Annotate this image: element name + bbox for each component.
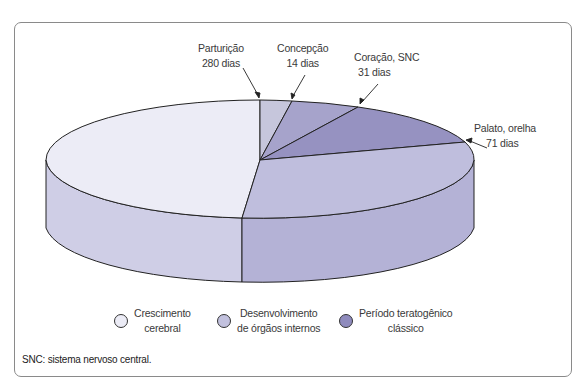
legend-swatch-icon	[114, 314, 128, 328]
label-palato-orelha: Palato, orelha 71 dias	[474, 121, 536, 151]
legend-item-teratogenico: Período teratogênico clássico	[339, 306, 452, 336]
chart-legend: Crescimento cerebral Desenvolvimento de …	[0, 300, 587, 340]
label-parturicao: Parturição 280 dias	[198, 41, 244, 71]
legend-swatch-icon	[339, 314, 353, 328]
legend-item-orgaos: Desenvolvimento de órgãos internos	[217, 306, 320, 336]
label-coracao-snc: Coração, SNC 31 dias	[354, 50, 419, 80]
footnote: SNC: sistema nervoso central.	[22, 354, 151, 365]
legend-swatch-icon	[217, 314, 231, 328]
label-concepcao: Concepção 14 dias	[277, 41, 328, 71]
legend-item-crescimento: Crescimento cerebral	[114, 306, 191, 336]
